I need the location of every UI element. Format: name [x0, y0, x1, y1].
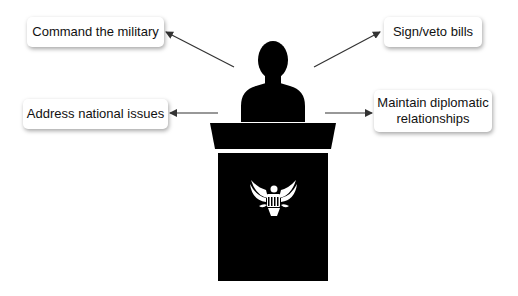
arrow-to-sign-veto — [314, 32, 380, 67]
label-command-military: Command the military — [27, 17, 164, 47]
label-sign-veto: Sign/veto bills — [384, 17, 482, 47]
label-command-military-text: Command the military — [32, 24, 158, 40]
label-diplomatic-line2: relationships — [397, 111, 470, 127]
label-address-issues-text: Address national issues — [27, 106, 164, 122]
arrow-to-command-military — [166, 32, 234, 67]
label-diplomatic-line1: Maintain diplomatic — [377, 95, 488, 111]
person-silhouette-icon — [241, 41, 305, 122]
label-sign-veto-text: Sign/veto bills — [393, 24, 473, 40]
label-diplomatic: Maintain diplomatic relationships — [374, 90, 492, 132]
label-address-issues: Address national issues — [23, 99, 168, 129]
